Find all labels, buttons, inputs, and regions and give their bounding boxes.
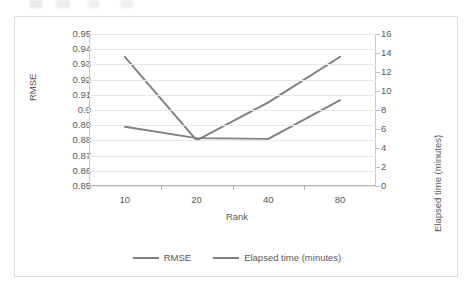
- y-axis-left-tick-mark: [85, 171, 89, 172]
- y-axis-left-tick-mark: [85, 110, 89, 111]
- y-axis-right-tick-mark: [376, 34, 380, 35]
- y-axis-right-tick-label: 12: [381, 67, 403, 77]
- y-axis-right-tick-label: 16: [381, 29, 403, 39]
- gridline: [89, 156, 376, 157]
- y-axis-left-tick-mark: [85, 140, 89, 141]
- chart-container: RMSE Elapsed time (minutes) 0.950.940.93…: [14, 16, 458, 277]
- x-axis-tick-mark: [233, 186, 234, 190]
- chart-legend: RMSEElapsed time (minutes): [15, 252, 459, 263]
- x-axis-tick-label: 20: [177, 195, 217, 205]
- y-axis-right-tick-label: 0: [381, 181, 403, 191]
- x-axis-tick-label: 10: [105, 195, 145, 205]
- y-axis-right-tick-mark: [376, 167, 380, 168]
- legend-item[interactable]: Elapsed time (minutes): [213, 252, 341, 263]
- series-line: [125, 57, 340, 141]
- y-axis-right-tick-mark: [376, 91, 380, 92]
- y-axis-right-tick-mark: [376, 186, 380, 187]
- gridline: [89, 34, 376, 35]
- legend-label: Elapsed time (minutes): [244, 252, 341, 263]
- y-axis-left-tick-mark: [85, 34, 89, 35]
- gridline: [89, 64, 376, 65]
- gridline: [89, 110, 376, 111]
- y-axis-right-tick-label: 2: [381, 162, 403, 172]
- y-axis-left-tick-mark: [85, 80, 89, 81]
- y-axis-left-tick-mark: [85, 186, 89, 187]
- y-axis-left-tick-mark: [85, 125, 89, 126]
- x-axis-title: Rank: [15, 211, 459, 222]
- y-axis-right-tick-mark: [376, 148, 380, 149]
- y-axis-right-tick-label: 10: [381, 86, 403, 96]
- y-axis-right-tick-label: 4: [381, 143, 403, 153]
- gridline: [89, 125, 376, 126]
- y-axis-right-tick-mark: [376, 110, 380, 111]
- gridline: [89, 171, 376, 172]
- y-axis-right-tick-mark: [376, 129, 380, 130]
- x-axis-tick-label: 80: [320, 195, 360, 205]
- legend-label: RMSE: [164, 252, 191, 263]
- y-axis-right-tick-mark: [376, 72, 380, 73]
- x-axis-tick-mark: [304, 186, 305, 190]
- gridline: [89, 140, 376, 141]
- x-axis-tick-label: 40: [248, 195, 288, 205]
- y-axis-left-tick-mark: [85, 156, 89, 157]
- legend-line-icon: [213, 257, 239, 259]
- gridline: [89, 80, 376, 81]
- y-axis-left-title: RMSE: [27, 74, 38, 101]
- y-axis-right-tick-label: 8: [381, 105, 403, 115]
- x-axis-tick-mark: [161, 186, 162, 190]
- legend-item[interactable]: RMSE: [133, 252, 191, 263]
- legend-line-icon: [133, 257, 159, 259]
- y-axis-left-tick-mark: [85, 49, 89, 50]
- y-axis-left-tick-mark: [85, 64, 89, 65]
- gridline: [89, 95, 376, 96]
- y-axis-right-tick-mark: [376, 53, 380, 54]
- y-axis-right-tick-label: 14: [381, 48, 403, 58]
- gridline: [89, 49, 376, 50]
- scan-artifact: [30, 0, 170, 8]
- y-axis-left-tick-mark: [85, 95, 89, 96]
- series-line: [125, 100, 340, 139]
- plot-area: [89, 34, 376, 186]
- y-axis-right-tick-label: 6: [381, 124, 403, 134]
